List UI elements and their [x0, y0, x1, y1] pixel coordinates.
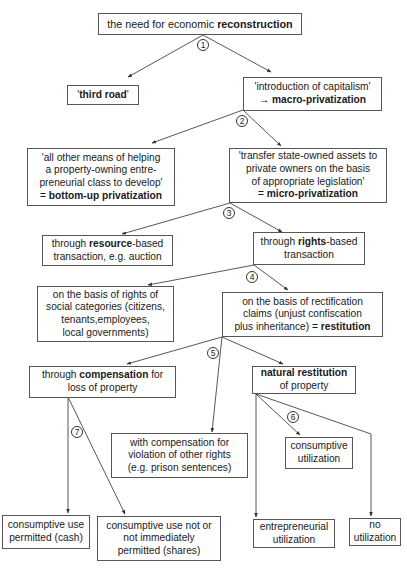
- edge-capitalism-micro: [243, 110, 281, 146]
- node-natural-restitution: natural restitution of property: [252, 366, 356, 394]
- step-number-4: 4: [246, 271, 258, 283]
- node-text: through: [42, 369, 79, 380]
- node-text: 'all other means of helping: [42, 152, 161, 165]
- node-text: permitted (shares): [118, 545, 201, 558]
- node-social-categories: on the basis of rights of social categor…: [37, 286, 174, 342]
- node-text: social categories (citizens,: [46, 301, 165, 314]
- node-text: tenants,employees,: [61, 314, 149, 327]
- edge-rights-restitution: [254, 265, 288, 290]
- edge-micro-resource: [122, 203, 230, 234]
- step-number-7: 7: [71, 426, 83, 438]
- node-text: on the basis of rights of: [53, 289, 158, 302]
- node-entrepreneurial-utilization: entrepreneurial utilization: [253, 519, 335, 548]
- node-text: =: [258, 188, 267, 199]
- step-number-6: 6: [287, 411, 299, 423]
- node-third-road: 'third road': [67, 85, 139, 105]
- node-text: -based: [326, 236, 357, 247]
- edge-capitalism-bottom-up: [152, 110, 243, 143]
- node-text: a property-owning entre-: [46, 164, 157, 177]
- node-text: consumptive: [290, 440, 347, 453]
- node-bottom-up-privatization: 'all other means of helping a property-o…: [27, 148, 175, 206]
- node-restitution: on the basis of rectification claims (un…: [222, 292, 383, 337]
- node-text: utilization: [273, 534, 315, 547]
- node-compensation: through compensation for loss of propert…: [29, 366, 176, 398]
- node-keyword: rights: [298, 236, 326, 247]
- node-consumptive-cash: consumptive use permitted (cash): [2, 515, 90, 549]
- node-text: entrepreneurial: [260, 521, 329, 534]
- node-resource-based: through resource-based transaction, e.g.…: [42, 235, 173, 266]
- node-text: with compensation for: [130, 437, 229, 450]
- node-text: preneurial class to develop': [39, 177, 162, 190]
- node-text: (e.g. prison sentences): [128, 462, 232, 475]
- node-rights-based: through rights-based transaction: [253, 232, 365, 265]
- node-text: consumptive use: [8, 519, 84, 532]
- node-text: plus inheritance) =: [234, 321, 320, 332]
- node-text: claims (unjust confiscation: [243, 308, 362, 321]
- node-text: 'transfer state-owned assets to: [239, 150, 377, 163]
- node-reconstruction: the need for economic reconstruction: [98, 13, 302, 35]
- node-text: the need for economic: [107, 18, 217, 30]
- node-keyword: bottom-up privatization: [49, 190, 162, 201]
- node-text: through: [261, 236, 298, 247]
- step-number-1: 1: [197, 39, 209, 51]
- edge-root-third-road: [128, 35, 203, 77]
- node-text: =: [40, 190, 49, 201]
- node-text: on the basis of rectification: [242, 296, 363, 309]
- step-number-3: 3: [223, 207, 235, 219]
- node-consumptive-utilization: consumptive utilization: [285, 437, 353, 469]
- node-text: no: [369, 519, 380, 532]
- node-text: transaction: [284, 249, 334, 262]
- node-text: through: [52, 238, 89, 249]
- step-number-2: 2: [236, 115, 248, 127]
- node-text: local governments): [62, 327, 148, 340]
- node-macro-privatization: 'introduction of capitalism' → macro-pri…: [243, 77, 382, 111]
- node-text: of appropriate legislation': [252, 176, 365, 189]
- node-keyword: compensation: [79, 369, 148, 380]
- node-text: transaction, e.g. auction: [53, 251, 161, 264]
- edge-rights-social: [148, 265, 254, 285]
- node-no-utilization: no utilization: [349, 518, 401, 546]
- node-text: loss of property: [68, 382, 138, 395]
- edge-micro-rights: [230, 203, 282, 232]
- node-text: permitted (cash): [9, 532, 83, 545]
- node-keyword: macro-privatization: [272, 94, 366, 105]
- node-keyword: resource: [89, 238, 132, 249]
- node-text: not immediately: [123, 532, 194, 545]
- node-text: of property: [280, 380, 329, 393]
- node-keyword: restitution: [321, 321, 371, 332]
- node-keyword: third road: [79, 89, 127, 100]
- edge-root-capitalism: [203, 35, 271, 72]
- node-text: for: [148, 369, 163, 380]
- node-text: violation of other rights: [128, 449, 231, 462]
- node-consumptive-shares: consumptive use not or not immediately p…: [97, 516, 221, 561]
- node-text: ': [127, 89, 129, 100]
- node-text: private owners on the basis: [246, 163, 370, 176]
- node-text: 'introduction of capitalism': [254, 81, 370, 94]
- node-text: utilization: [354, 532, 396, 545]
- node-text: -based: [132, 238, 163, 249]
- arrow-glyph: →: [259, 94, 272, 105]
- step-number-5: 5: [207, 347, 219, 359]
- privatization-diagram: 1 2 3 4 5 6 7 the need for economic reco…: [0, 0, 407, 570]
- edge-restitution-natural: [222, 337, 283, 364]
- node-micro-privatization: 'transfer state-owned assets to private …: [229, 148, 387, 203]
- node-keyword: micro-privatization: [267, 188, 358, 199]
- node-text: consumptive use not or: [106, 520, 211, 533]
- node-other-rights-compensation: with compensation for violation of other…: [111, 433, 248, 478]
- node-keyword: reconstruction: [217, 18, 293, 30]
- node-text: utilization: [298, 453, 340, 466]
- node-keyword: natural restitution: [261, 367, 348, 380]
